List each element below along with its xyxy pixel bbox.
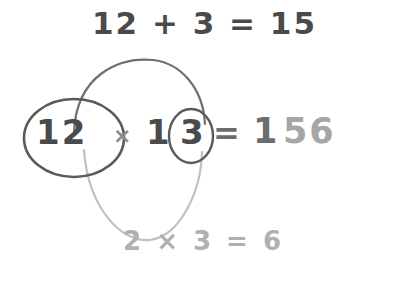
multiplication-sign: × <box>113 125 131 147</box>
left-factor: 12 <box>36 115 87 149</box>
right-factor-units-digit: 3 <box>180 115 204 149</box>
top-expression: 12 + 3 = 15 <box>92 8 317 39</box>
result-leading-digit: 1 <box>253 114 278 149</box>
right-factor-tens-digit: 1 <box>146 115 170 149</box>
result-trailing-digits: 56 <box>283 114 336 149</box>
diagram-canvas: 12 + 3 = 15 12 × 1 3 = 1 56 2 × 3 = 6 <box>0 0 396 283</box>
bottom-expression: 2 × 3 = 6 <box>123 228 284 254</box>
equals-sign: = <box>213 117 240 149</box>
